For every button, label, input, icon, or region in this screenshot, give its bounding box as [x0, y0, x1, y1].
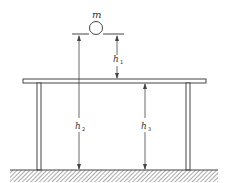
table-top: [23, 79, 206, 83]
diagram-canvas: m h 1 h 2 h 3: [0, 0, 227, 183]
ground-hatch: [10, 170, 218, 182]
svg-text:h: h: [141, 121, 147, 131]
table-height-diagram: m h 1 h 2 h 3: [0, 0, 227, 183]
table-leg-left: [37, 83, 41, 170]
h3-dimension: h 3: [141, 83, 151, 170]
h1-dimension: h 1: [113, 35, 123, 79]
svg-text:h: h: [113, 54, 119, 64]
svg-text:2: 2: [82, 126, 85, 132]
mass-ball: [90, 22, 103, 35]
table-leg-right: [186, 83, 190, 170]
h2-dimension: h 2: [75, 35, 85, 170]
svg-text:3: 3: [148, 126, 151, 132]
mass-label: m: [92, 9, 101, 20]
svg-text:1: 1: [120, 59, 123, 65]
svg-text:h: h: [75, 121, 81, 131]
